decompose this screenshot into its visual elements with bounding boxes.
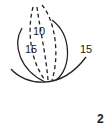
step-number: 2 bbox=[97, 112, 104, 125]
label-left-solid: 15 bbox=[25, 43, 37, 55]
label-inner-dashed: 10 bbox=[33, 25, 45, 37]
dashed-petal-right bbox=[42, 5, 56, 80]
diagram-canvas: 10 15 15 2 bbox=[0, 0, 109, 125]
solid-petal-right bbox=[52, 20, 68, 80]
label-right-solid: 15 bbox=[80, 43, 92, 55]
